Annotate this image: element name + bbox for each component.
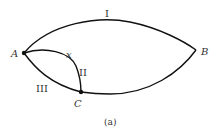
node-B-label: B <box>200 46 208 57</box>
edge-I <box>24 20 196 53</box>
edge-II-label: II <box>79 67 87 78</box>
point-x-label: x <box>66 49 72 60</box>
edge-I-label: I <box>105 8 109 19</box>
edge-III-label: III <box>36 83 48 94</box>
node-A-label: A <box>10 48 18 59</box>
edge-II <box>24 50 81 92</box>
node-C-label: C <box>74 98 82 109</box>
node-C <box>79 90 83 94</box>
graph-diagram: A B C I II x III (a) <box>0 0 217 134</box>
node-A <box>22 51 26 55</box>
edge-B-C <box>81 50 196 94</box>
edge-III <box>24 53 81 92</box>
figure-caption: (a) <box>104 117 116 127</box>
